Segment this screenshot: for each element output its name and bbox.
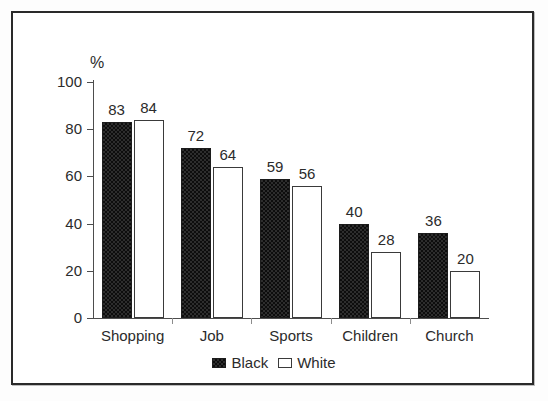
bar-value-label: 56 <box>284 166 330 181</box>
y-tick-label-text: 0 <box>48 310 82 325</box>
bar-church-black <box>418 233 448 318</box>
legend-item-white: White <box>278 355 335 370</box>
y-tick-label: 80 <box>44 121 82 136</box>
bar-value-label: 64 <box>205 147 251 162</box>
bar-value-label: 36 <box>410 213 456 228</box>
bar-church-white <box>450 271 480 318</box>
category-separator-tick <box>251 318 252 324</box>
bar-value-label: 28 <box>363 232 409 247</box>
category-label-church: Church <box>389 327 509 344</box>
category-separator-tick <box>172 318 173 324</box>
bar-children-white <box>371 252 401 318</box>
y-tick-label: 20 <box>44 263 82 278</box>
category-separator-tick <box>331 318 332 324</box>
y-tick-mark <box>87 318 93 319</box>
y-tick-mark <box>87 271 93 272</box>
y-axis-unit-label: % <box>90 55 104 71</box>
bar-shopping-black <box>102 122 132 318</box>
y-tick-label-text: 60 <box>48 168 82 183</box>
bar-job-black <box>181 148 211 318</box>
y-tick-label-text: 40 <box>48 216 82 231</box>
y-tick-mark <box>87 176 93 177</box>
legend-swatch-black-icon <box>212 358 226 368</box>
bar-job-white <box>213 167 243 318</box>
bar-sports-white <box>292 186 322 318</box>
bar-value-label: 20 <box>442 251 488 266</box>
legend-label-black: Black <box>231 355 268 370</box>
figure-container: % 020406080100 83847264595640283620 Shop… <box>0 0 548 401</box>
bar-shopping-white <box>134 120 164 318</box>
y-tick-label: 0 <box>44 310 82 325</box>
plot-area: % 020406080100 83847264595640283620 Shop… <box>0 0 548 401</box>
bar-sports-black <box>260 179 290 318</box>
legend-swatch-white-icon <box>278 358 292 368</box>
y-tick-label: 60 <box>44 168 82 183</box>
y-tick-label-text: 80 <box>48 121 82 136</box>
bar-value-label: 72 <box>173 128 219 143</box>
bar-value-label: 84 <box>126 100 172 115</box>
y-tick-label: 40 <box>44 216 82 231</box>
y-tick-mark <box>87 224 93 225</box>
y-tick-mark <box>87 82 93 83</box>
y-tick-mark <box>87 129 93 130</box>
bar-value-label: 40 <box>331 204 377 219</box>
legend-label-white: White <box>297 355 335 370</box>
category-separator-tick <box>410 318 411 324</box>
x-axis-line <box>93 318 489 319</box>
y-tick-label-text: 100 <box>48 74 82 89</box>
y-tick-label-text: 20 <box>48 263 82 278</box>
legend-item-black: Black <box>212 355 268 370</box>
chart-legend: Black White <box>0 355 548 370</box>
y-tick-label: 100 <box>44 74 82 89</box>
